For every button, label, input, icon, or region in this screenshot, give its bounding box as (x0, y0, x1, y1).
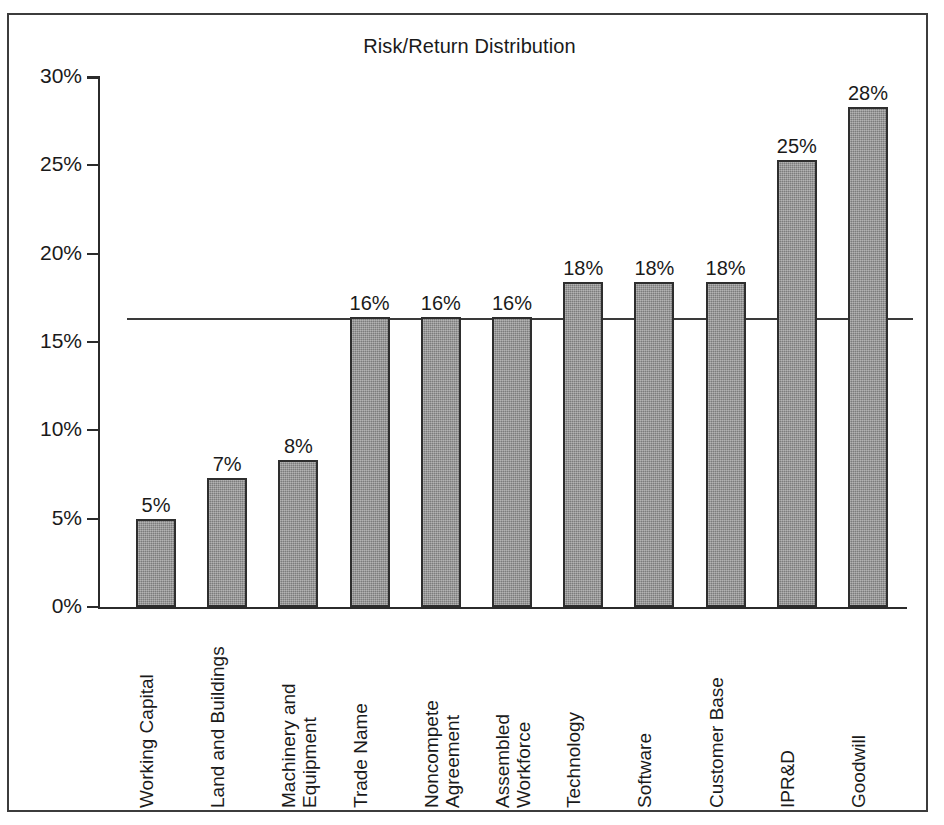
bar[interactable]: 28% (848, 107, 888, 607)
x-axis-category-label: Trade Name (350, 623, 390, 813)
bar[interactable]: 18% (563, 282, 603, 607)
y-axis-tick-label: 10% (40, 418, 82, 440)
x-axis-category-label: IPR&D (777, 623, 817, 813)
plot-area: 0%5%10%15%20%25%30% 5%7%8%16%16%16%18%18… (100, 77, 907, 607)
bar[interactable]: 16% (492, 317, 532, 607)
category-label-text: Land and Buildings (207, 623, 228, 808)
y-axis-top-rule (87, 77, 100, 79)
bar[interactable]: 7% (207, 478, 247, 607)
x-axis-category-label: Machinery and Equipment (278, 623, 318, 813)
bar[interactable]: 18% (706, 282, 746, 607)
bar-value-label: 8% (284, 435, 313, 457)
x-axis-category-label: Technology (563, 623, 603, 813)
x-axis-category-label: Noncompete Agreement (421, 623, 461, 813)
category-label-text: Trade Name (350, 623, 371, 808)
bar-value-label: 16% (492, 292, 532, 314)
category-label-text: Assembled Workforce (492, 623, 534, 808)
chart-figure: Risk/Return Distribution 0%5%10%15%20%25… (7, 13, 928, 812)
y-axis-line (98, 77, 100, 609)
y-axis-tick (87, 429, 100, 431)
x-axis-category-label: Land and Buildings (207, 623, 247, 813)
y-axis-tick (87, 606, 100, 608)
bar-value-label: 7% (213, 453, 242, 475)
category-label-text: Noncompete Agreement (421, 623, 463, 808)
y-axis-tick-label: 5% (52, 507, 82, 529)
x-axis-category-label: Software (634, 623, 674, 813)
category-label-text: Technology (563, 623, 584, 808)
category-label-text: IPR&D (777, 623, 798, 808)
bar-value-label: 18% (706, 257, 746, 279)
y-axis-tick-label: 20% (40, 242, 82, 264)
x-axis-category-label: Assembled Workforce (492, 623, 532, 813)
bar[interactable]: 8% (278, 460, 318, 607)
x-axis-category-label: Goodwill (848, 623, 888, 813)
y-axis-tick-label: 30% (40, 65, 82, 87)
y-axis-tick (87, 341, 100, 343)
bar-value-label: 18% (634, 257, 674, 279)
bar-value-label: 18% (563, 257, 603, 279)
category-label-text: Working Capital (136, 623, 157, 808)
bar-value-label: 25% (777, 135, 817, 157)
bar-value-label: 28% (848, 82, 888, 104)
bar[interactable]: 16% (421, 317, 461, 607)
y-axis-tick (87, 518, 100, 520)
bar-value-label: 16% (421, 292, 461, 314)
y-axis-tick-label: 15% (40, 330, 82, 352)
y-axis-tick-label: 25% (40, 153, 82, 175)
y-axis-tick-label: 0% (52, 595, 82, 617)
bar-value-label: 16% (350, 292, 390, 314)
category-label-text: Goodwill (848, 623, 869, 808)
y-axis-tick (87, 164, 100, 166)
category-label-text: Customer Base (706, 623, 727, 808)
y-axis-tick (87, 253, 100, 255)
category-label-text: Software (634, 623, 655, 808)
category-label-text: Machinery and Equipment (278, 623, 320, 808)
bar-value-label: 5% (142, 494, 171, 516)
x-axis-category-label: Customer Base (706, 623, 746, 813)
x-axis-line (98, 607, 907, 609)
chart-title: Risk/Return Distribution (9, 35, 930, 58)
x-axis-category-label: Working Capital (136, 623, 176, 813)
bar[interactable]: 25% (777, 160, 817, 607)
bar[interactable]: 18% (634, 282, 674, 607)
bar[interactable]: 5% (136, 519, 176, 607)
bar[interactable]: 16% (350, 317, 390, 607)
